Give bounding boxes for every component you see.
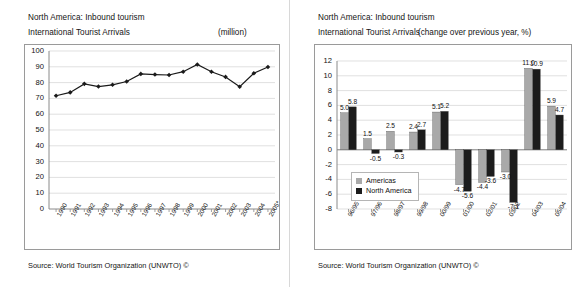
bar-data-label: 2.7	[414, 121, 429, 128]
legend-swatch-icon	[356, 188, 362, 194]
bar-data-label: -0.3	[391, 153, 406, 160]
bar-data-label: 4.7	[552, 106, 567, 113]
y-axis-tick-label: 0	[315, 146, 332, 154]
right-chart-title-line1: North America: Inbound tourism	[318, 13, 435, 22]
bar-data-label: 5.2	[437, 102, 452, 109]
y-axis-tick-label: 90	[25, 63, 44, 71]
y-axis-tick-label: 100	[25, 47, 44, 55]
legend-label: Americas	[366, 176, 396, 186]
bar-data-label: -5.6	[460, 192, 475, 199]
y-axis-tick-label: 50	[25, 126, 44, 134]
left-chart-title-line2: International Tourist Arrivals	[28, 28, 130, 37]
y-axis-tick-label: 4	[315, 116, 332, 124]
y-axis-tick-label: 80	[25, 79, 44, 87]
bar-chart-canvas	[315, 45, 571, 249]
y-axis-tick-label: 20	[25, 173, 44, 181]
y-axis-tick-label: 6	[315, 101, 332, 109]
right-chart-panel: North America: Inbound tourism Internati…	[290, 0, 579, 287]
bar-data-label: -3.6	[483, 177, 498, 184]
left-chart-plot-area: 0102030405060708090100199019911992199319…	[24, 44, 280, 250]
left-chart-unit-label: (million)	[218, 28, 247, 37]
y-axis-tick-label: -2	[315, 161, 332, 169]
y-axis-tick-label: -8	[315, 205, 332, 213]
bar-data-label: 5.9	[544, 97, 559, 104]
right-chart-plot-area: -8-6-4-202468101296/9597/9698/9799/9800/…	[314, 44, 572, 250]
y-axis-tick-label: 10	[25, 189, 44, 197]
right-chart-title-line2: International Tourist Arrivals	[318, 28, 420, 37]
y-axis-tick-label: 30	[25, 158, 44, 166]
line-chart-canvas	[25, 45, 279, 249]
legend-swatch-icon	[356, 178, 362, 184]
bar-data-label: -0.5	[368, 155, 383, 162]
chart-legend: AmericasNorth America	[351, 172, 419, 201]
y-axis-tick-label: 8	[315, 87, 332, 95]
screenshot-root: North America: Inbound tourism Internati…	[0, 0, 579, 287]
y-axis-tick-label: 70	[25, 94, 44, 102]
bar-data-label: 1.5	[360, 130, 375, 137]
y-axis-tick-label: -6	[315, 190, 332, 198]
bar-data-label: -3.0	[498, 173, 513, 180]
y-axis-tick-label: -4	[315, 175, 332, 183]
y-axis-tick-label: 2	[315, 131, 332, 139]
y-axis-tick-label: 10	[315, 72, 332, 80]
left-chart-source: Source: World Tourism Organization (UNWT…	[28, 261, 189, 270]
legend-item[interactable]: North America	[356, 186, 412, 196]
left-chart-panel: North America: Inbound tourism Internati…	[0, 0, 289, 287]
y-axis-tick-label: 0	[25, 205, 44, 213]
legend-label: North America	[366, 186, 412, 196]
bar-data-label: 5.8	[345, 98, 360, 105]
right-chart-source: Source: World Tourism Organization (UNWT…	[318, 261, 479, 270]
bar-data-label: 2.5	[383, 122, 398, 129]
legend-item[interactable]: Americas	[356, 176, 412, 186]
right-chart-unit-label: (change over previous year, %)	[418, 28, 531, 37]
bar-data-label: -7.1	[506, 203, 521, 210]
y-axis-tick-label: 60	[25, 110, 44, 118]
y-axis-tick-label: 12	[315, 57, 332, 65]
left-chart-title-line1: North America: Inbound tourism	[28, 13, 145, 22]
bar-data-label: 10.9	[529, 60, 544, 67]
y-axis-tick-label: 40	[25, 142, 44, 150]
